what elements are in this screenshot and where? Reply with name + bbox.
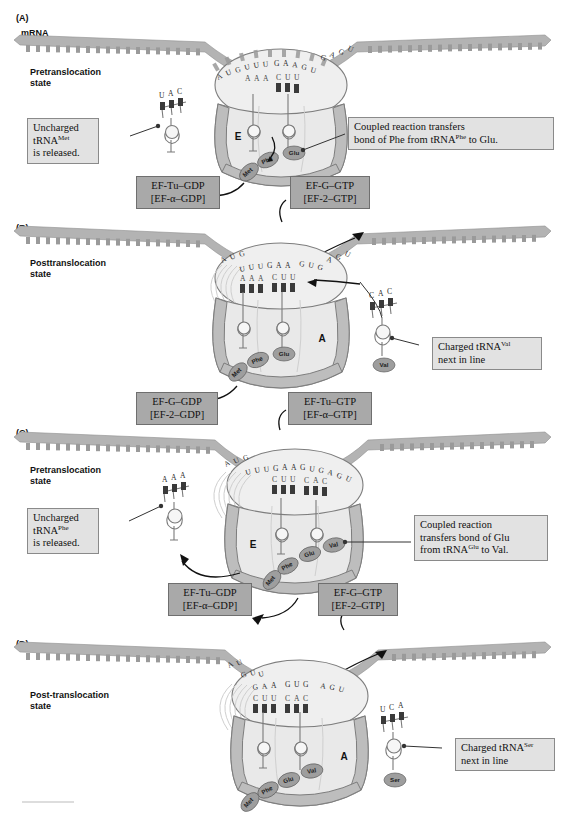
- factor-line2: [EF-α–GDP]: [151, 193, 206, 204]
- svg-text:C: C: [253, 694, 258, 703]
- callout-line2: next in line: [461, 755, 508, 766]
- callout-line2-sup: Phe: [58, 523, 69, 531]
- ef-g-gtp-box-a: EF-G–GTP [EF-2–GTP]: [290, 176, 370, 209]
- svg-text:U: U: [294, 73, 300, 82]
- callout-line2-post: to Glu.: [466, 134, 498, 145]
- uncharged-trna-met-callout: Uncharged tRNAMet is released.: [27, 118, 99, 164]
- e-site-label: E: [250, 539, 257, 550]
- ef-g-gtp-box-c: EF-G–GTP [EF-2–GTP]: [318, 583, 398, 616]
- factor-line2: [EF-2–GDP]: [150, 409, 204, 420]
- svg-text:Glu: Glu: [279, 350, 290, 357]
- panel-a: (A) mRNA Pretranslocation state: [0, 0, 563, 210]
- factor-line2: [EF-α–GDP]: [183, 600, 238, 611]
- callout-line3-pre: from tRNA: [420, 544, 468, 555]
- panel-b-graphic: A U G U U U GAA G U G A G U AAA CUU: [0, 210, 563, 420]
- e-site-label: E: [235, 131, 242, 142]
- callout-line2-sup: Phe: [456, 132, 467, 140]
- svg-text:U: U: [380, 705, 386, 714]
- callout-line1-pre: Charged tRNA: [438, 341, 501, 352]
- callout-line3-sup: Glu: [468, 543, 479, 551]
- coupled-reaction-glu-callout: Coupled reaction transfers bond of Glu f…: [414, 515, 548, 561]
- callout-line2-pre: tRNA: [33, 525, 58, 536]
- callout-line1: Uncharged: [33, 512, 79, 523]
- svg-text:C: C: [285, 694, 290, 703]
- callout-line1-sup: Val: [501, 340, 510, 348]
- svg-text:A: A: [168, 89, 174, 98]
- svg-text:C: C: [276, 73, 281, 82]
- svg-text:G: G: [285, 680, 291, 689]
- svg-text:U: U: [159, 91, 165, 100]
- callout-line2-pre: bond of Phe from tRNA: [354, 134, 456, 145]
- svg-text:C: C: [387, 287, 392, 296]
- svg-text:U: U: [290, 475, 296, 484]
- svg-text:A: A: [282, 463, 288, 472]
- svg-text:A: A: [378, 289, 384, 298]
- factor-line2: [EF-α–GTP]: [303, 409, 356, 420]
- panel-d: (D) Post-translocation state: [0, 630, 563, 813]
- callout-line1-pre: Charged tRNA: [461, 742, 524, 753]
- svg-text:Glu: Glu: [289, 149, 300, 156]
- panel-d-graphic: A U G U U G A A GUG A G U CUU CAC: [0, 630, 563, 813]
- svg-text:A: A: [240, 274, 246, 283]
- factor-line1: EF-Tu–GTP: [304, 396, 356, 407]
- factor-line1: EF-G–GTP: [306, 180, 354, 191]
- svg-text:A: A: [180, 471, 186, 480]
- factor-line1: EF-G–GTP: [334, 587, 382, 598]
- ef-tu-gdp-box-c: EF-Tu–GDP [EF-α–GDP]: [168, 583, 252, 616]
- factor-line1: EF-Tu–GDP: [183, 587, 236, 598]
- a-site-label: A: [340, 751, 347, 762]
- svg-text:A: A: [294, 694, 300, 703]
- svg-text:G: G: [300, 463, 306, 472]
- svg-text:A: A: [249, 274, 255, 283]
- ef-tu-gdp-box-a: EF-Tu–GDP [EF-α–GDP]: [136, 176, 220, 209]
- factor-line1: EF-G–GDP: [152, 396, 202, 407]
- svg-text:C: C: [272, 273, 277, 282]
- svg-text:Ser: Ser: [390, 776, 401, 783]
- callout-line1: Coupled reaction transfers: [354, 121, 465, 132]
- svg-text:A: A: [291, 463, 297, 472]
- svg-text:U: U: [271, 694, 277, 703]
- svg-text:A: A: [258, 274, 264, 283]
- a-site-label: A: [318, 333, 325, 344]
- svg-text:C: C: [303, 694, 308, 703]
- svg-text:G: G: [267, 261, 273, 270]
- charged-trna-val-callout: Charged tRNAVal next in line: [432, 337, 542, 370]
- svg-text:U: U: [290, 273, 296, 282]
- callout-line3: is released.: [33, 537, 80, 548]
- callout-line1-sup: Ser: [524, 741, 533, 749]
- callout-line3-post: to Val.: [479, 544, 509, 555]
- svg-text:U: U: [281, 475, 287, 484]
- svg-text:U: U: [281, 273, 287, 282]
- svg-text:A: A: [283, 59, 289, 68]
- callout-line1: Uncharged: [33, 122, 79, 133]
- uncharged-trna-phe-callout: Uncharged tRNAPhe is released.: [27, 508, 99, 554]
- svg-text:U: U: [262, 694, 268, 703]
- svg-text:A: A: [263, 74, 269, 83]
- svg-text:C: C: [304, 476, 309, 485]
- svg-text:A: A: [285, 261, 291, 270]
- svg-text:C: C: [322, 477, 327, 486]
- svg-text:C: C: [389, 703, 394, 712]
- panel-c: (C) Pretranslocation state: [0, 420, 563, 630]
- svg-text:A: A: [276, 261, 282, 270]
- svg-text:A: A: [271, 681, 277, 690]
- svg-text:U: U: [294, 680, 300, 689]
- factor-line1: EF-Tu–GDP: [151, 180, 204, 191]
- svg-text:G: G: [303, 680, 309, 689]
- svg-text:C: C: [369, 291, 374, 300]
- svg-text:A: A: [398, 701, 404, 710]
- callout-line1: Coupled reaction: [420, 519, 492, 530]
- callout-line3: is released.: [33, 147, 80, 158]
- svg-text:G: G: [274, 59, 280, 68]
- svg-text:A: A: [313, 476, 319, 485]
- svg-text:C: C: [177, 87, 182, 96]
- svg-text:G: G: [273, 464, 279, 473]
- svg-text:C: C: [272, 475, 277, 484]
- svg-text:A: A: [162, 475, 168, 484]
- charged-trna-ser-callout: Charged tRNASer next in line: [455, 738, 555, 771]
- coupled-reaction-phe-callout: Coupled reaction transfers bond of Phe f…: [348, 117, 554, 150]
- footer-rule: [22, 801, 74, 803]
- svg-text:A: A: [245, 74, 251, 83]
- callout-line2-sup: Met: [58, 133, 69, 141]
- svg-text:U: U: [285, 73, 291, 82]
